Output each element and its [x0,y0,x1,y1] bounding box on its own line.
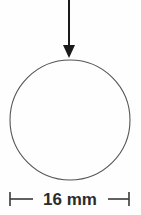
technical-diagram: 16 mm [0,0,141,215]
background [0,0,141,215]
diagram-canvas: 16 mm [0,0,141,215]
dimension-label: 16 mm [43,190,97,209]
